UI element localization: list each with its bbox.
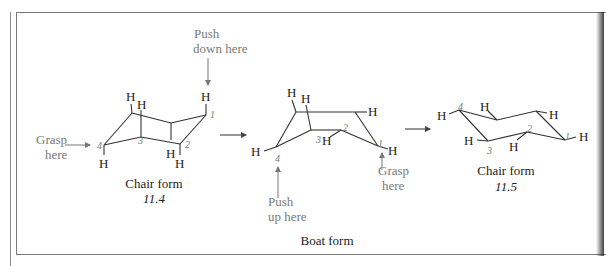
h-atom: H [287,85,296,100]
h-atom: H [464,133,473,148]
h-atom: H [251,144,260,159]
h-atom: H [175,156,184,171]
grasp-label-left: Grasp [36,132,67,147]
chair-form-11-5-number: 11.5 [495,179,517,194]
carbon-number-2: 2 [185,137,190,152]
h-atom: H [388,143,397,158]
grasp-label-right: Grasp [378,163,409,178]
h-atom: H [368,104,377,119]
chair-form-11-4-number: 11.4 [143,191,165,206]
carbon-number-1: 1 [378,136,383,151]
push-up-label: Push [268,194,293,209]
grasp-label-right-2: here [382,178,404,193]
h-atom: H [137,97,146,112]
carbon-number-3: 3 [316,132,321,147]
push-down-label: Push [194,26,219,41]
carbon-number-3: 3 [487,143,492,158]
grasp-label-left-2: here [45,147,67,162]
h-atom: H [99,156,108,171]
h-atom: H [549,107,558,122]
h-atom: H [126,89,135,104]
carbon-number-2: 2 [527,121,532,136]
carbon-number-2: 2 [343,120,348,135]
chair-form-11-4-structure [104,104,206,155]
push-up-label-2: up here [268,209,307,224]
h-atom: H [301,91,310,106]
boat-form-title: Boat form [300,233,353,248]
h-atom: H [201,89,210,104]
push-down-label-2: down here [193,41,248,56]
h-atom: H [322,133,331,148]
carbon-number-1: 1 [565,129,570,144]
h-atom: H [437,108,446,123]
carbon-number-4: 4 [275,151,280,166]
h-atom: H [166,146,175,161]
h-atom: H [509,139,518,154]
carbon-number-3: 3 [138,133,143,148]
chair-form-11-4-title: Chair form [125,176,182,191]
chair-form-11-5-title: Chair form [477,163,534,178]
carbon-number-4: 4 [458,99,463,114]
h-atom: H [480,99,489,114]
carbon-number-1: 1 [210,107,215,122]
h-atom: H [579,129,588,144]
carbon-number-4: 4 [97,138,102,153]
